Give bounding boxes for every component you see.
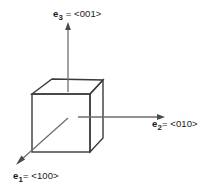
axis-arrowhead-e3 xyxy=(65,22,71,30)
axis-label-e1: e1= <100> xyxy=(13,171,59,184)
axis-line-e1 xyxy=(21,118,68,160)
cube-axes-drawing xyxy=(0,0,215,195)
axis-label-e3-direction: = <001> xyxy=(63,8,102,19)
cube-right-face xyxy=(90,80,103,152)
crystal-axes-figure: e3 = <001> e2= <010> e1= <100> xyxy=(0,0,215,195)
axis-label-e1-direction: = <100> xyxy=(23,170,59,181)
axis-label-e2: e2= <010> xyxy=(152,119,198,132)
axis-label-e3: e3 = <001> xyxy=(53,9,101,22)
axis-label-e2-direction: = <010> xyxy=(162,118,198,129)
cube-front-face xyxy=(32,94,90,152)
